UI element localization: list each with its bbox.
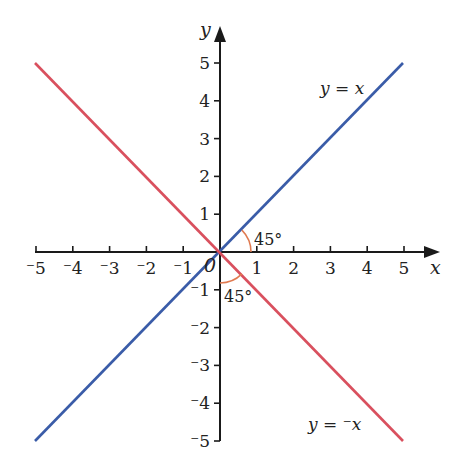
y-axis-arrow-icon [214,26,226,42]
x-tick-label: 4 [362,258,373,278]
y-tick-label: 1 [199,204,210,224]
x-tick-label: ⁻4 [63,258,83,278]
x-tick-label: 2 [288,258,299,278]
y-tick-label: ⁻1 [190,280,210,300]
x-tick-label: ⁻5 [26,258,46,278]
label-y-equals-x: y = x [319,78,365,98]
y-tick-label: ⁻3 [190,355,210,375]
label-neg-y: y [307,414,318,434]
angle-arc-2 [220,274,242,283]
label-neg-x: x [352,414,362,434]
y-tick-label: 5 [199,53,210,73]
label-pos-y: y [319,78,330,98]
x-tick-label: ⁻2 [137,258,157,278]
x-tick-label: 5 [399,258,410,278]
x-tick-label: 3 [325,258,336,278]
y-tick-label: ⁻5 [190,431,210,451]
label-pos-x: x [355,78,365,98]
angle-arc-1 [242,230,251,252]
label-neg-eq: = ⁻ [318,414,352,434]
origin-label: 0 [204,254,216,276]
y-tick-label: 3 [199,129,210,149]
y-tick-label: ⁻4 [190,393,210,413]
x-tick-label: ⁻3 [100,258,120,278]
y-tick-label: 4 [199,91,210,111]
angle-label-1: 45° [254,230,282,249]
y-tick-label: 2 [199,166,210,186]
coordinate-plane: ⁻5⁻4⁻3⁻2⁻112345 54321⁻1⁻2⁻3⁻4⁻5 y x 0 45… [0,0,461,472]
y-axis-label: y [199,18,211,40]
label-pos-eq: = [330,78,355,98]
angle-label-2: 45° [224,287,252,306]
x-axis-label: x [430,256,441,278]
label-y-equals-neg-x: y = ⁻x [307,414,362,434]
x-tick-label: 1 [251,258,262,278]
y-tick-label: ⁻2 [190,318,210,338]
x-tick-label: ⁻1 [173,258,193,278]
